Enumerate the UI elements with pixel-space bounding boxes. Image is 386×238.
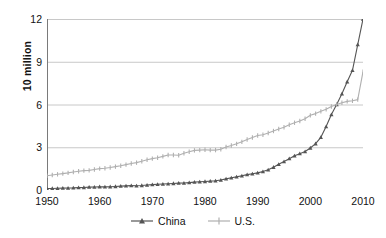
x-tick-label: 1970 [132, 196, 172, 207]
line-chart: 10 million 129630 1950196019701980199020… [0, 0, 386, 238]
x-tick-label: 1950 [27, 196, 67, 207]
x-tick-label: 1980 [185, 196, 225, 207]
chart-legend: China U.S. [0, 216, 386, 227]
data-point [340, 92, 344, 96]
data-point [319, 135, 323, 139]
legend-label-china: China [158, 216, 185, 227]
x-tick-label: 2010 [343, 196, 383, 207]
x-tick-label: 2000 [290, 196, 330, 207]
data-point [350, 68, 354, 72]
legend-item-china[interactable]: China [131, 216, 185, 227]
data-point [356, 43, 360, 47]
legend-item-us[interactable]: U.S. [208, 216, 255, 227]
plot-area [47, 19, 363, 190]
data-point [324, 124, 328, 128]
legend-label-us: U.S. [235, 216, 255, 227]
series-line [47, 72, 363, 176]
data-point [345, 80, 349, 84]
legend-marker-china [131, 216, 153, 226]
series-line [47, 19, 363, 189]
series-us [47, 70, 363, 178]
x-tick-label: 1960 [80, 196, 120, 207]
legend-marker-us [208, 216, 230, 226]
x-tick-label: 1990 [238, 196, 278, 207]
data-point [329, 112, 333, 116]
plot-svg [47, 19, 363, 190]
